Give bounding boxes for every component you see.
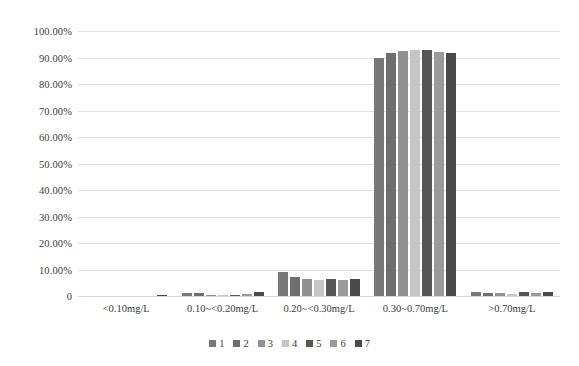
bar	[326, 279, 336, 296]
bar	[507, 294, 517, 296]
legend-swatch-icon	[233, 340, 240, 347]
legend-label: 4	[292, 338, 297, 349]
bar-cluster	[78, 31, 174, 296]
y-axis-tick-label: 80.00%	[39, 79, 72, 90]
y-axis-tick-label: 50.00%	[39, 158, 72, 169]
legend-item[interactable]: 5	[306, 338, 321, 349]
bar	[471, 292, 481, 296]
bar-cluster	[367, 31, 463, 296]
bar	[446, 53, 456, 296]
bar	[182, 293, 192, 296]
bar	[531, 293, 541, 296]
bar	[422, 50, 432, 296]
bar	[398, 51, 408, 296]
bar	[483, 293, 493, 296]
legend-swatch-icon	[355, 340, 362, 347]
y-axis-tick-label: 0	[67, 291, 72, 302]
x-axis-labels: <0.10mg/L0.10~<0.20mg/L0.20~<0.30mg/L0.3…	[78, 303, 560, 314]
x-axis-tick-label: 0.10~<0.20mg/L	[174, 303, 270, 314]
bar	[194, 293, 204, 296]
bar	[254, 292, 264, 296]
x-axis-tick-label: 0.30~0.70mg/L	[367, 303, 463, 314]
bar-group	[174, 31, 270, 296]
chart-legend: 1234567	[0, 338, 579, 349]
bar-group	[367, 31, 463, 296]
y-axis-tick-label: 30.00%	[39, 211, 72, 222]
bar-cluster	[464, 31, 560, 296]
y-axis-tick-label: 90.00%	[39, 52, 72, 63]
y-axis-tick-label: 60.00%	[39, 132, 72, 143]
bar	[218, 295, 228, 296]
bar	[543, 292, 553, 297]
bar-group	[464, 31, 560, 296]
bar-cluster	[174, 31, 270, 296]
legend-swatch-icon	[282, 340, 289, 347]
legend-label: 1	[219, 338, 224, 349]
bar	[386, 53, 396, 296]
legend-label: 6	[340, 338, 345, 349]
bar-group	[271, 31, 367, 296]
y-axis-tick-label: 10.00%	[39, 264, 72, 275]
bar	[495, 293, 505, 296]
bar	[230, 295, 240, 296]
legend-swatch-icon	[306, 340, 313, 347]
bar	[338, 280, 348, 296]
bar-chart: 100.00%90.00%80.00%70.00%60.00%50.00%40.…	[0, 0, 579, 366]
legend-item[interactable]: 2	[233, 338, 248, 349]
legend-item[interactable]: 7	[355, 338, 370, 349]
bar	[157, 295, 167, 296]
legend-swatch-icon	[330, 340, 337, 347]
bar	[519, 292, 529, 296]
bar-group	[78, 31, 174, 296]
y-axis-tick-label: 100.00%	[34, 26, 72, 37]
bar	[302, 279, 312, 296]
bar	[374, 58, 384, 297]
legend-item[interactable]: 4	[282, 338, 297, 349]
x-axis-tick-label: <0.10mg/L	[78, 303, 174, 314]
y-axis-tick-label: 20.00%	[39, 238, 72, 249]
legend-label: 2	[243, 338, 248, 349]
legend-swatch-icon	[209, 340, 216, 347]
bar-cluster-group	[78, 31, 560, 296]
gridline	[78, 296, 560, 297]
bar	[434, 52, 444, 296]
bar	[206, 295, 216, 296]
bar	[350, 279, 360, 296]
legend-item[interactable]: 3	[258, 338, 273, 349]
legend-label: 7	[365, 338, 370, 349]
bar	[278, 272, 288, 296]
y-axis-tick-label: 70.00%	[39, 105, 72, 116]
bar	[314, 280, 324, 296]
x-axis-tick-label: 0.20~<0.30mg/L	[271, 303, 367, 314]
bar-cluster	[271, 31, 367, 296]
bar	[242, 294, 252, 296]
legend-label: 5	[316, 338, 321, 349]
legend-label: 3	[268, 338, 273, 349]
y-axis-tick-label: 40.00%	[39, 185, 72, 196]
bar	[290, 277, 300, 296]
x-axis-tick-label: >0.70mg/L	[464, 303, 560, 314]
bar	[410, 50, 420, 296]
legend-swatch-icon	[258, 340, 265, 347]
legend-item[interactable]: 6	[330, 338, 345, 349]
y-axis-labels: 100.00%90.00%80.00%70.00%60.00%50.00%40.…	[0, 31, 72, 296]
legend-item[interactable]: 1	[209, 338, 224, 349]
